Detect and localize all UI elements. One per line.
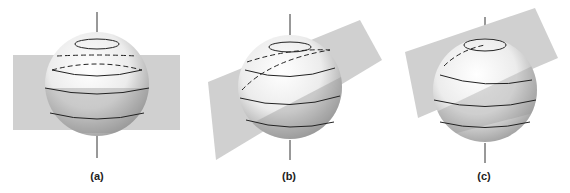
diagram-canvas [0,0,570,193]
panel-label-a: (a) [90,170,103,182]
panel-c [405,8,558,163]
panel-a [13,12,180,158]
panel-label-c: (c) [477,170,490,182]
panel-b [208,14,382,160]
panel-label-b: (b) [282,170,296,182]
